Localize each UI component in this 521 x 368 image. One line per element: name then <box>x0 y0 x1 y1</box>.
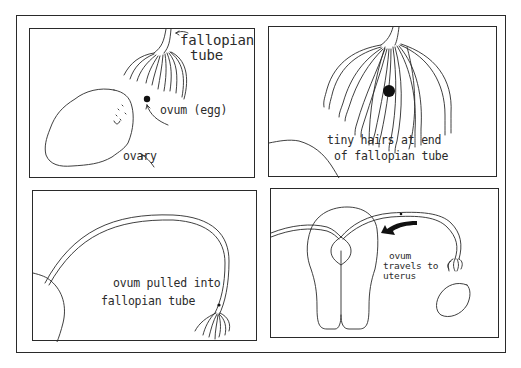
label-fallopian: fallopian <box>180 33 254 48</box>
label-tiny-hairs-line1: tiny hairs at end <box>327 134 441 147</box>
panel-3-drawing <box>33 191 258 342</box>
label-ovum-travels-line3: uterus <box>383 271 416 281</box>
ovum-dot <box>217 303 220 306</box>
panel-4-ovum-to-uterus: ovum travels to uterus <box>270 188 499 338</box>
label-tiny-hairs-line2: of fallopian tube <box>334 150 448 163</box>
label-ovum-egg: ovum (egg) <box>160 104 227 117</box>
ovum-dot <box>383 85 395 97</box>
diagram-stage: fallopian tube ovum (egg) ovary <box>0 0 521 368</box>
label-tube: tube <box>190 48 223 63</box>
label-ovum-pulled-line1: ovum pulled into <box>113 277 221 290</box>
label-ovary: ovary <box>123 150 157 163</box>
panel-3-ovum-pulled-in: ovum pulled into fallopian tube <box>32 190 257 341</box>
ovum-dot <box>400 213 403 216</box>
ovum-dot <box>144 96 150 102</box>
label-ovum-pulled-line2: fallopian tube <box>101 295 195 308</box>
panel-1-ovary-and-tube: fallopian tube ovum (egg) ovary <box>29 28 255 178</box>
panel-2-fimbriae-closeup: tiny hairs at end of fallopian tube <box>268 26 497 177</box>
direction-arrow-icon <box>381 221 417 235</box>
